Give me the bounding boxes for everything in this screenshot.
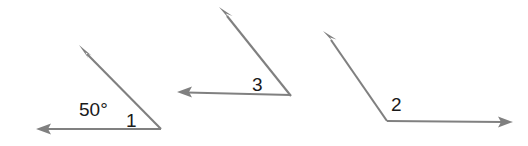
angle-figure-1: 50° 1 xyxy=(36,45,161,135)
angle-3-diagonal-arrow-icon xyxy=(219,7,233,20)
angle-diagram-svg: 50° 1 3 2 xyxy=(0,0,528,146)
angle-diagram-canvas: 50° 1 3 2 xyxy=(0,0,528,146)
angle-figure-2: 2 xyxy=(323,31,513,128)
angle-2-horizontal-ray xyxy=(387,121,503,122)
angle-figure-3: 3 xyxy=(177,7,291,98)
angle-1-measure-label: 50° xyxy=(79,99,108,120)
angle-2-diagonal-ray xyxy=(331,40,387,121)
angle-2-number-label: 2 xyxy=(391,94,402,115)
angle-3-horizontal-ray xyxy=(187,93,291,96)
angle-3-number-label: 3 xyxy=(252,74,263,95)
angle-1-number-label: 1 xyxy=(126,110,137,131)
angle-2-diagonal-arrow-icon xyxy=(323,31,337,43)
